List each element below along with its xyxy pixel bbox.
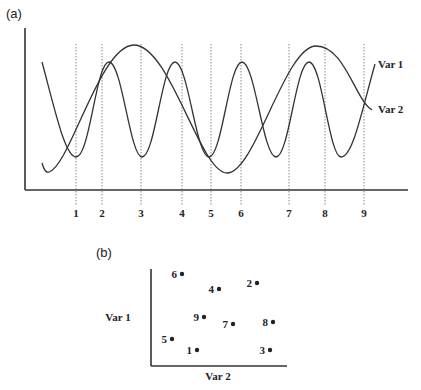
- time-marker-3: 3: [138, 207, 144, 219]
- scatter-point-8: 8: [263, 316, 276, 328]
- var1-label: Var 1: [378, 58, 403, 70]
- svg-text:8: 8: [263, 316, 269, 328]
- var2-curve: [42, 45, 372, 173]
- time-marker-1: 1: [73, 207, 79, 219]
- scatter-point-9: 9: [194, 311, 207, 323]
- time-marker-lines: [76, 44, 364, 205]
- scatter-y-label: Var 1: [105, 311, 130, 323]
- scatter-point-4: 4: [209, 283, 222, 295]
- scatter-point-5: 5: [162, 333, 175, 345]
- panel-b-label: (b): [96, 245, 112, 260]
- scatter-point-6: 6: [172, 268, 185, 280]
- scatter-points: 6 4 2 9 7 8 5 1 3: [162, 268, 276, 356]
- svg-text:6: 6: [172, 268, 178, 280]
- svg-text:9: 9: [194, 311, 200, 323]
- scatter-x-label: Var 2: [205, 370, 231, 382]
- time-marker-labels: 1 2 3 4 5 6 7 8 9: [73, 207, 367, 219]
- svg-text:7: 7: [223, 318, 229, 330]
- time-marker-4: 4: [179, 207, 185, 219]
- svg-text:4: 4: [209, 283, 215, 295]
- var2-label: Var 2: [378, 103, 404, 115]
- svg-text:2: 2: [247, 277, 253, 289]
- svg-text:3: 3: [260, 344, 266, 356]
- time-marker-7: 7: [286, 207, 292, 219]
- figure: (a) 1 2 3 4 5 6 7 8 9 Var 1 Var 2 (b) Va…: [0, 0, 421, 390]
- svg-text:5: 5: [162, 333, 168, 345]
- scatter-point-3: 3: [260, 344, 273, 356]
- var1-curve: [42, 62, 375, 157]
- scatter-point-7: 7: [223, 318, 236, 330]
- time-marker-8: 8: [322, 207, 328, 219]
- panel-a-axes: [25, 28, 408, 190]
- time-marker-9: 9: [361, 207, 367, 219]
- scatter-point-2: 2: [247, 277, 260, 289]
- time-marker-2: 2: [99, 207, 105, 219]
- svg-text:1: 1: [187, 344, 193, 356]
- scatter-point-1: 1: [187, 344, 200, 356]
- panel-a-label: (a): [6, 6, 22, 21]
- time-marker-5: 5: [208, 207, 214, 219]
- time-marker-6: 6: [238, 207, 244, 219]
